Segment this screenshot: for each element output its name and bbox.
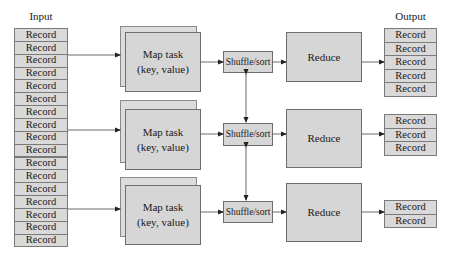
connector-arrows — [0, 0, 455, 259]
